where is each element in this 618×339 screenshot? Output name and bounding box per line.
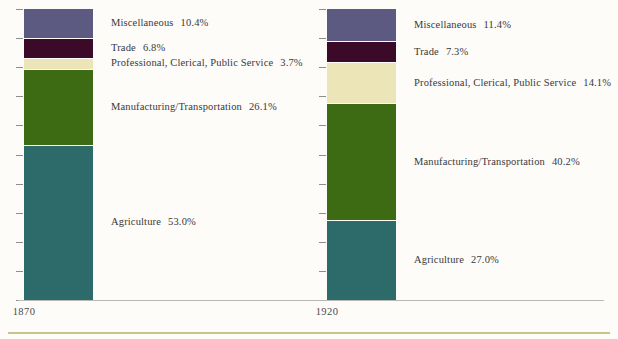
bar-segment[interactable]: [327, 9, 396, 42]
segment-label-name: Manufacturing/Transportation: [414, 156, 545, 167]
axis-tick: [16, 184, 23, 185]
axis-tick: [319, 155, 326, 156]
segment-label: Agriculture27.0%: [414, 254, 499, 265]
segment-label-name: Professional, Clerical, Public Service: [111, 57, 273, 68]
segment-label: Trade6.8%: [111, 42, 165, 53]
axis-tick: [319, 67, 326, 68]
bar-segment[interactable]: [327, 63, 396, 104]
axis-tick: [319, 213, 326, 214]
segment-label-name: Agriculture: [111, 216, 161, 227]
bar-segment[interactable]: [24, 9, 93, 39]
segment-label-percent: 6.8%: [143, 42, 165, 53]
segment-label-percent: 3.7%: [280, 57, 302, 68]
axis-tick: [319, 38, 326, 39]
segment-label: Miscellaneous10.4%: [111, 17, 208, 28]
segment-label: Trade7.3%: [414, 46, 468, 57]
plot-area: Miscellaneous10.4%Trade6.8%Professional,…: [0, 0, 618, 339]
axis-tick: [319, 242, 326, 243]
stacked-bar-1920[interactable]: [327, 9, 396, 300]
segment-label-percent: 10.4%: [181, 17, 209, 28]
segment-label-name: Professional, Clerical, Public Service: [414, 77, 576, 88]
bar-segment[interactable]: [24, 146, 93, 300]
bar-segment[interactable]: [327, 221, 396, 300]
segment-label: Professional, Clerical, Public Service14…: [414, 77, 611, 88]
axis-tick: [16, 155, 23, 156]
segment-label: Miscellaneous11.4%: [414, 19, 511, 30]
axis-tick: [16, 213, 23, 214]
axis-tick: [16, 125, 23, 126]
x-axis-label-1870: 1870: [0, 306, 64, 317]
stacked-bar-1870[interactable]: [24, 9, 93, 300]
segment-label-name: Miscellaneous: [414, 19, 477, 30]
axis-tick: [16, 9, 23, 10]
axis-tick: [319, 9, 326, 10]
segment-label: Manufacturing/Transportation40.2%: [414, 156, 580, 167]
x-axis-line: [18, 300, 604, 301]
x-axis-label-1920: 1920: [287, 306, 367, 317]
axis-tick: [319, 271, 326, 272]
axis-tick: [16, 67, 23, 68]
segment-label-name: Miscellaneous: [111, 17, 174, 28]
segment-label-name: Trade: [111, 42, 136, 53]
chart-canvas: Miscellaneous10.4%Trade6.8%Professional,…: [0, 0, 618, 339]
bar-segment[interactable]: [24, 59, 93, 70]
bar-segment[interactable]: [24, 39, 93, 59]
segment-label-percent: 7.3%: [446, 46, 468, 57]
bottom-rule: [8, 332, 610, 334]
axis-tick: [16, 96, 23, 97]
segment-label: Manufacturing/Transportation26.1%: [111, 101, 277, 112]
segment-label-name: Manufacturing/Transportation: [111, 101, 242, 112]
segment-label-percent: 26.1%: [249, 101, 277, 112]
segment-label-percent: 14.1%: [583, 77, 611, 88]
axis-tick: [319, 125, 326, 126]
segment-label: Professional, Clerical, Public Service3.…: [111, 57, 303, 68]
segment-label-percent: 27.0%: [471, 254, 499, 265]
segment-label-percent: 11.4%: [484, 19, 511, 30]
segment-label: Agriculture53.0%: [111, 216, 196, 227]
axis-tick: [319, 184, 326, 185]
bar-segment[interactable]: [24, 70, 93, 146]
bar-segment[interactable]: [327, 42, 396, 63]
segment-label-percent: 53.0%: [168, 216, 196, 227]
axis-tick: [16, 38, 23, 39]
bar-segment[interactable]: [327, 104, 396, 221]
segment-label-percent: 40.2%: [552, 156, 580, 167]
axis-tick: [16, 242, 23, 243]
axis-tick: [16, 271, 23, 272]
segment-label-name: Trade: [414, 46, 439, 57]
axis-tick: [319, 96, 326, 97]
segment-label-name: Agriculture: [414, 254, 464, 265]
